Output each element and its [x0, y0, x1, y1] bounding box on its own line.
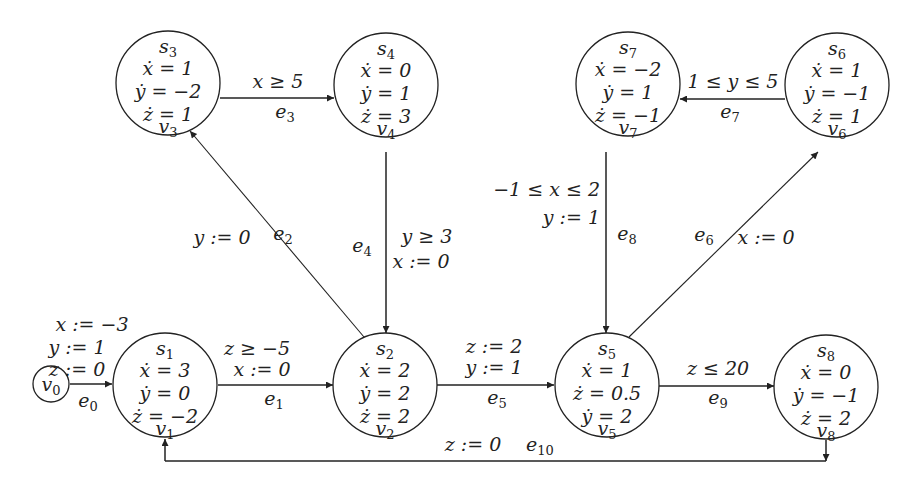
flow-x: ẋ = 0 [361, 59, 412, 81]
svg-text:e6: e6 [694, 223, 714, 248]
state-node-v7: s7ẋ = −2ẏ = 1ż = −1v7 [576, 32, 680, 141]
svg-text:e7: e7 [720, 100, 740, 125]
edge-e9-guard: z ≤ 20 [686, 357, 749, 379]
svg-text:e9: e9 [708, 386, 728, 411]
edge-e2-reset: y := 0 [192, 226, 250, 248]
flow-y: ẏ = 1 [602, 81, 654, 103]
edge-e5-reset: y := 1 [464, 356, 522, 378]
state-node-v8: s8ẋ = 0ẏ = −1ż = 2v8 [774, 335, 878, 444]
edge-e4-reset: x := 0 [392, 250, 449, 272]
edge-e4-guard: y ≥ 3 [401, 225, 453, 247]
svg-text:e4: e4 [352, 234, 372, 259]
flow-y: ẏ = 0 [139, 382, 191, 404]
flow-x: ẋ = −2 [595, 58, 662, 80]
svg-text:x := −3: x := −3 [55, 313, 128, 335]
flow-y: ż = 0.5 [572, 382, 641, 404]
state-node-v6: s6ẋ = 1ẏ = −1ż = 1v6 [785, 33, 889, 142]
flow-y: ẏ = −1 [792, 384, 860, 406]
state-node-v1: s1ẋ = 3ẏ = 0ż = −2v1 [113, 333, 217, 442]
edge-e8-guard: −1 ≤ x ≤ 2 [493, 178, 600, 200]
edge-e8-reset: y := 1 [542, 206, 600, 228]
svg-text:e8: e8 [617, 222, 637, 247]
flow-y: ẏ = −2 [134, 80, 202, 102]
svg-text:z := 0: z := 0 [48, 358, 106, 380]
edge-e6-reset: x := 0 [737, 226, 794, 248]
svg-text:y := 1: y := 1 [47, 336, 105, 358]
flow-x: ẋ = 3 [140, 359, 191, 381]
flow-x: ẋ = 1 [143, 57, 194, 79]
flow-y: ẏ = −1 [803, 82, 871, 104]
edge-e1-reset: x := 0 [233, 358, 290, 380]
svg-text:e2: e2 [273, 222, 293, 247]
edge-e1-guard: z ≥ −5 [223, 337, 290, 359]
state-node-v2: s2ẋ = 2ẏ = 2ż = 2v2 [333, 333, 437, 442]
state-node-v4: s4ẋ = 0ẏ = 1ż = 3v4 [334, 33, 438, 142]
svg-text:e1: e1 [264, 387, 284, 412]
flow-x: ẋ = 1 [812, 59, 863, 81]
flow-y: ẏ = 1 [360, 82, 412, 104]
flow-x: ẋ = 1 [582, 359, 633, 381]
edge-e3-guard: x ≥ 5 [253, 70, 304, 92]
edge-e5-guard: z := 2 [465, 335, 523, 357]
flow-x: ẋ = 2 [360, 359, 411, 381]
svg-text:e5: e5 [487, 386, 507, 411]
state-node-v5: s5ẋ = 1ż = 0.5ẏ = 2v5 [555, 333, 659, 442]
state-node-v3: s3ẋ = 1ẏ = −2ż = 1v3 [116, 31, 220, 140]
edge-e10-reset: z := 0 [444, 433, 502, 455]
svg-text:e10: e10 [526, 433, 554, 458]
edge-e7-guard: 1 ≤ y ≤ 5 [688, 70, 779, 92]
svg-text:e0: e0 [78, 389, 98, 414]
hybrid-automaton-diagram: v0 x := −3 y := 1 z := 0 s1ẋ = 3ẏ = 0ż =… [0, 0, 916, 484]
svg-text:e3: e3 [275, 100, 295, 125]
flow-x: ẋ = 0 [801, 361, 852, 383]
flow-y: ẏ = 2 [359, 382, 411, 404]
